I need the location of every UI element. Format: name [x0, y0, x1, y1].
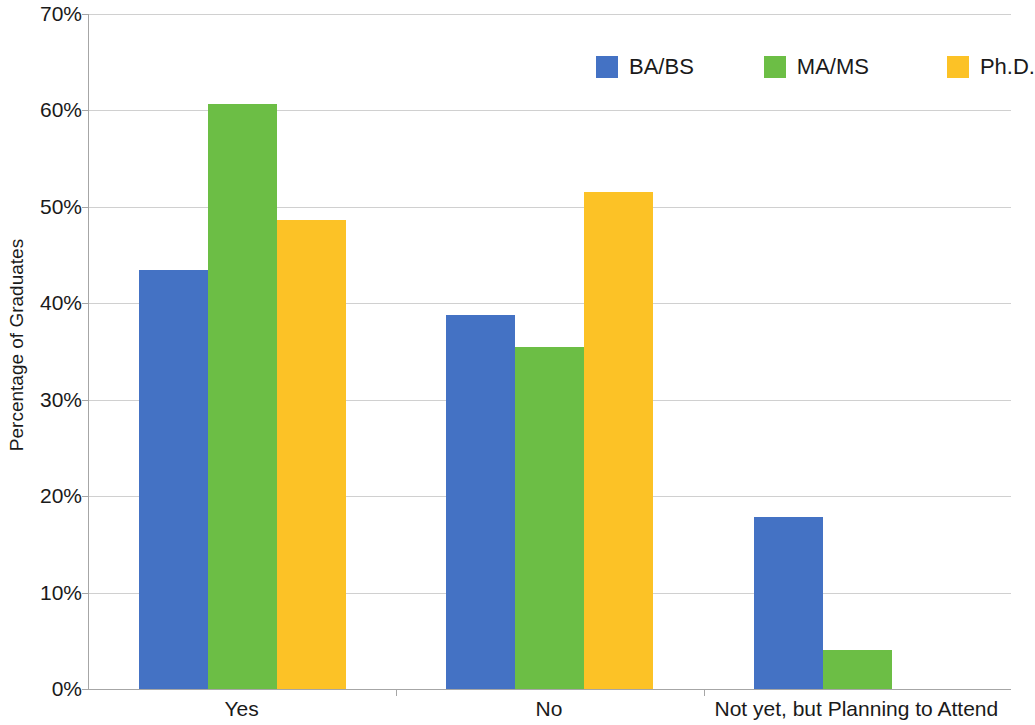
y-axis-tickmark — [82, 496, 89, 497]
y-axis-tickmark — [82, 593, 89, 594]
bar-group — [396, 14, 703, 689]
bar-group — [89, 14, 396, 689]
y-axis-tickmark — [82, 14, 89, 15]
bar — [446, 315, 515, 689]
y-axis-tickmark — [82, 400, 89, 401]
y-axis-tick-label: 10% — [34, 581, 82, 605]
bar — [584, 192, 653, 689]
bars — [704, 14, 1011, 689]
bar — [277, 220, 346, 689]
bar-groups — [89, 14, 1011, 689]
y-axis-tick-label: 20% — [34, 484, 82, 508]
legend-label: BA/BS — [629, 54, 694, 80]
y-axis-tickmark — [82, 207, 89, 208]
x-axis-tick-label: Yes — [88, 692, 395, 725]
y-axis-tickmark — [82, 689, 89, 690]
y-axis-tick-label: 60% — [34, 98, 82, 122]
bar — [208, 104, 277, 689]
bars — [89, 14, 396, 689]
y-axis-tick-label: 70% — [34, 2, 82, 26]
y-axis-tick-label: 50% — [34, 195, 82, 219]
y-axis-tickmark — [82, 303, 89, 304]
legend-item[interactable]: BA/BS — [596, 54, 694, 80]
y-axis-tick-label: 40% — [34, 291, 82, 315]
bar — [754, 517, 823, 689]
y-axis-title: Percentage of Graduates — [0, 0, 34, 689]
x-axis-tick-label: Not yet, but Planning to Attend — [703, 692, 1010, 725]
x-axis-tick-label: No — [395, 692, 702, 725]
bar — [823, 650, 892, 689]
legend-color-swatch — [764, 56, 786, 78]
legend-label: Ph.D. — [980, 54, 1035, 80]
y-axis-tick-labels: 70%60%50%40%30%20%10%0% — [34, 0, 82, 700]
bar-group — [704, 14, 1011, 689]
y-axis-tick-label: 30% — [34, 388, 82, 412]
y-axis-tick-label: 0% — [34, 677, 82, 701]
bar — [515, 347, 584, 689]
x-axis-tick-labels: YesNoNot yet, but Planning to Attend — [88, 692, 1010, 725]
legend-label: MA/MS — [797, 54, 869, 80]
y-axis-tickmark — [82, 110, 89, 111]
bar — [139, 270, 208, 689]
legend-item[interactable]: Ph.D. — [947, 54, 1035, 80]
legend: BA/BSMA/MSPh.D. — [596, 50, 1035, 84]
legend-color-swatch — [947, 56, 969, 78]
bars — [396, 14, 703, 689]
legend-item[interactable]: MA/MS — [764, 54, 869, 80]
legend-color-swatch — [596, 56, 618, 78]
plot-area — [88, 14, 1011, 690]
y-axis-title-text: Percentage of Graduates — [6, 238, 28, 450]
